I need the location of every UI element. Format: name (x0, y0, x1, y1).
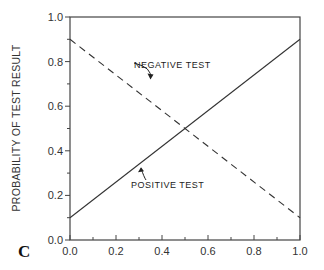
x-tick-label: 0.0 (62, 245, 77, 257)
x-tick-label: 0.2 (108, 245, 123, 257)
y-tick-label: 0.4 (48, 145, 63, 157)
y-tick-label: 1.0 (48, 11, 63, 23)
y-tick-label: 0.8 (48, 56, 63, 68)
x-tick-label: 0.4 (154, 245, 169, 257)
y-tick-label: 0.0 (48, 234, 63, 246)
x-tick-label: 0.6 (200, 245, 215, 257)
x-tick-label: 0.8 (246, 245, 261, 257)
panel-label: C (18, 242, 30, 261)
y-tick-label: 0.6 (48, 100, 63, 112)
x-tick-label: 1.0 (292, 245, 307, 257)
y-tick-label: 0.2 (48, 189, 63, 201)
annotations: NEGATIVE TESTPOSITIVE TEST (131, 60, 211, 190)
y-axis-label: PROBABILITY OF TEST RESULT (10, 44, 22, 211)
chart: 0.00.20.40.60.81.00.00.20.40.60.81.0 NEG… (0, 0, 324, 270)
negative-test-label: NEGATIVE TEST (134, 60, 211, 70)
positive-test-label: POSITIVE TEST (131, 180, 204, 190)
